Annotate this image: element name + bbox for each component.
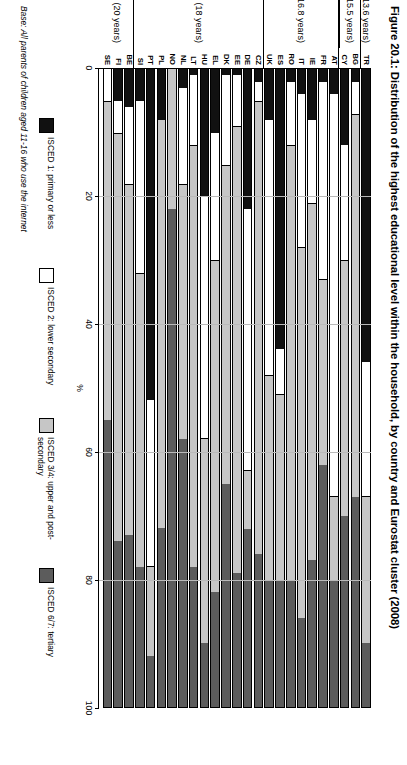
bar-segment [341, 145, 349, 261]
bar-segment [255, 69, 263, 82]
bar-segment [244, 471, 252, 528]
bar-segment [114, 69, 122, 101]
table-row [200, 68, 210, 708]
bar-segment [276, 395, 284, 580]
country-label: PL [157, 49, 167, 67]
bar-segment [309, 204, 317, 561]
bar-segment [265, 580, 273, 707]
country-label: LT [189, 49, 199, 67]
x-axis-tick-label: 20 [84, 191, 94, 201]
bar-segment [114, 541, 122, 707]
bar-segment [190, 75, 198, 146]
table-row [113, 68, 123, 708]
gridline [99, 452, 371, 453]
cluster-label: Cluster 4 (18 years) [133, 0, 263, 48]
legend-label: ISCED 3/4: upper and post-secondary [36, 437, 55, 568]
bar-segment [309, 69, 317, 120]
table-row [243, 68, 253, 708]
x-axis-tick-label: 100 [84, 701, 94, 715]
table-row [232, 68, 242, 708]
x-axis-tick-label: 0 [84, 66, 94, 71]
country-label: AT [329, 49, 339, 67]
x-axis-tick [95, 68, 99, 69]
bar-segment [352, 82, 360, 115]
bar-segment [147, 656, 155, 707]
x-axis: % 020406080100 [73, 68, 99, 708]
bar-segment [168, 209, 176, 707]
bar-segment [330, 69, 338, 94]
country-label: ES [275, 49, 285, 67]
table-row [297, 68, 307, 708]
bar-segment [298, 248, 306, 617]
table-row [146, 68, 156, 708]
bar-segment [104, 69, 112, 102]
legend-swatch-icon [39, 418, 54, 433]
x-axis-tick [95, 708, 99, 709]
bar-segment [201, 69, 209, 196]
country-label-column: TRBGCYATFRIEITROESUKCZDEEEDKELHULTNLNOPL… [99, 49, 371, 67]
table-row [103, 68, 113, 708]
country-label: SE [103, 49, 113, 67]
bar-segment [265, 69, 273, 120]
legend: ISCED 1: primary or lessISCED 2: lower s… [36, 118, 55, 718]
bar-segment [136, 274, 144, 567]
country-label: TR [361, 49, 371, 67]
country-label: FR [318, 49, 328, 67]
country-label: NO [167, 49, 177, 67]
bar-segment [114, 134, 122, 542]
table-row [286, 68, 296, 708]
gridline [99, 324, 371, 325]
bar-segment [233, 127, 241, 573]
bar-segment [136, 101, 144, 274]
bar-segment [190, 146, 198, 566]
bar-segment [298, 69, 306, 94]
bar-segment [125, 535, 133, 707]
bar-segment [362, 643, 370, 707]
bar-segment [179, 88, 187, 185]
legend-item: ISCED 6/7: tertiary [39, 568, 55, 718]
bar-segment [319, 82, 327, 280]
country-label: SI [135, 49, 145, 67]
bar-segment [233, 573, 241, 707]
table-row [318, 68, 328, 708]
table-row [189, 68, 199, 708]
bar-segment [114, 101, 122, 134]
legend-label: ISCED 6/7: tertiary [45, 587, 55, 657]
x-axis-tick-label: 40 [84, 319, 94, 329]
bar-segment [190, 567, 198, 707]
bar-segment [201, 643, 209, 707]
bar-segment [330, 94, 338, 496]
table-row [167, 68, 177, 708]
table-row [329, 68, 339, 708]
bar-segment [244, 209, 252, 471]
bar-segment [276, 349, 284, 395]
bar-segment [341, 69, 349, 145]
bar-segment [352, 115, 360, 497]
bar-segment [179, 185, 187, 440]
country-label: RO [286, 49, 296, 67]
bar-segment [244, 69, 252, 209]
bar-segment [287, 69, 295, 82]
bar-segment [211, 592, 219, 707]
country-label: EL [210, 49, 220, 67]
bar-segment [147, 69, 155, 400]
country-label: CY [340, 49, 350, 67]
legend-item: ISCED 3/4: upper and post-secondary [36, 418, 55, 568]
bar-segment [244, 529, 252, 707]
table-row [308, 68, 318, 708]
bar-segment [136, 69, 144, 101]
bar-segment [125, 107, 133, 184]
x-axis-tick-label: 80 [84, 575, 94, 585]
country-label: UK [264, 49, 274, 67]
bar-segment [104, 102, 112, 421]
table-row [254, 68, 264, 708]
bar-segment [179, 69, 187, 88]
bar-segment [362, 362, 370, 497]
bar-segment [222, 75, 230, 165]
bar-segment [211, 261, 219, 592]
cluster-label-column: Cluster 1 (13.6 years)Cluster 2 (15.5 ye… [99, 0, 371, 48]
gridline [99, 196, 371, 197]
legend-swatch-icon [39, 568, 54, 583]
country-label: HU [200, 49, 210, 67]
table-row [275, 68, 285, 708]
